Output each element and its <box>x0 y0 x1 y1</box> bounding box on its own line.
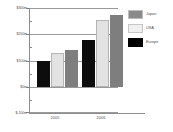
legend-item-usa: USA <box>128 23 172 37</box>
bar-2006-usa <box>96 20 109 87</box>
y-axis-labels: $300m $200m $100m $0m $-100m <box>0 8 27 113</box>
y-axis-tick-label: $200m <box>2 32 27 36</box>
y-axis-minor-tick <box>29 21 32 22</box>
y-axis-minor-tick <box>29 74 32 75</box>
y-axis-minor-tick <box>29 100 32 101</box>
bar-2006-europe <box>82 40 95 87</box>
bar-chart: $300m $200m $100m $0m $-100m <box>0 0 173 132</box>
bar-2006-japan <box>110 15 123 87</box>
y-axis-tick <box>26 87 29 88</box>
legend-item-japan: Japan <box>128 9 172 23</box>
bar-2005-europe <box>37 61 50 87</box>
europe-swatch-icon <box>128 38 143 47</box>
x-axis-tick-label-2006: 2006 <box>88 116 114 121</box>
legend-label-japan: Japan <box>146 11 156 17</box>
bar-2005-usa <box>51 53 64 87</box>
y-axis-tick-label: $300m <box>2 6 27 10</box>
y-axis-tick <box>26 34 29 35</box>
y-axis-tick-label: $-100m <box>2 111 27 115</box>
japan-swatch-icon <box>128 10 143 19</box>
y-axis-tick-label: $0m <box>2 85 27 89</box>
usa-swatch-icon <box>128 24 143 33</box>
x-axis-line <box>29 113 145 114</box>
legend: Japan USA Europe <box>128 9 172 51</box>
y-axis-tick <box>26 61 29 62</box>
plot-area <box>29 8 118 113</box>
bar-group-2006 <box>82 8 124 113</box>
legend-label-europe: Europe <box>146 39 158 45</box>
y-axis-minor-tick <box>29 47 32 48</box>
y-axis-line <box>29 8 30 113</box>
legend-label-usa: USA <box>146 25 154 31</box>
bar-2005-japan <box>65 50 78 87</box>
bar-group-2005 <box>37 8 79 113</box>
legend-item-europe: Europe <box>128 37 172 51</box>
y-axis-tick <box>26 8 29 9</box>
y-axis-tick-label: $100m <box>2 59 27 63</box>
x-axis-tick-label-2005: 2005 <box>42 116 68 121</box>
